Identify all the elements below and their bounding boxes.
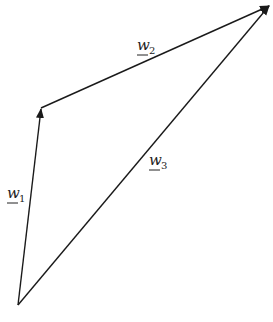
label-w3: w 3: [149, 151, 167, 171]
vector-diagram: w 2 w 3 w 1: [0, 0, 273, 322]
label-w1: w 1: [7, 184, 25, 204]
vector-w2-arrow: [41, 6, 269, 108]
svg-text:3: 3: [161, 160, 167, 171]
vector-w1-arrow: [18, 109, 41, 305]
label-w2: w 2: [137, 36, 155, 56]
svg-text:2: 2: [149, 45, 155, 56]
svg-text:1: 1: [19, 193, 25, 204]
